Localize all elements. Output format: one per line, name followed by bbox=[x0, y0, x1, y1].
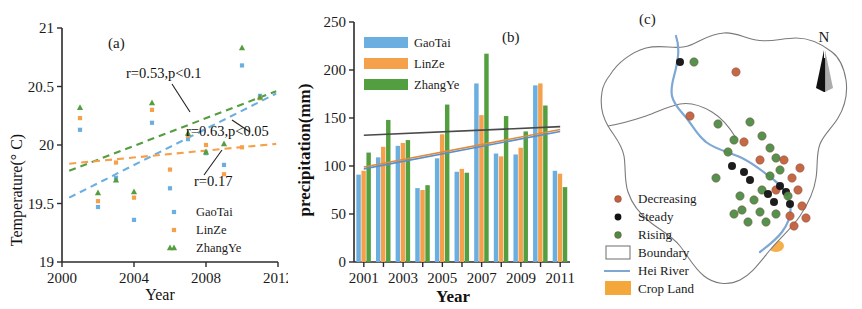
panel-a-trendline-gaotai bbox=[69, 94, 276, 198]
panel-b-bar-zhangye bbox=[445, 105, 449, 262]
panel-a-point-gaotai bbox=[96, 205, 100, 209]
map-marker-rising bbox=[746, 118, 754, 126]
panel-b-x-tick-label: 2001 bbox=[349, 270, 379, 286]
map-marker-decreasing bbox=[788, 174, 796, 182]
panel-a-point-zhangye bbox=[131, 188, 137, 194]
panel-a-annotation-linze: r=0.17 bbox=[194, 173, 232, 189]
panel-b-bar-zhangye bbox=[484, 54, 488, 262]
panel-a-y-tick-label: 20 bbox=[39, 137, 54, 153]
map-legend-label: Decreasing bbox=[638, 191, 697, 206]
panel-b-trend-dark bbox=[364, 127, 560, 136]
panel-a-point-linze bbox=[150, 108, 154, 112]
panel-b-bar-linze bbox=[518, 148, 522, 262]
panel-c-svg: N DecreasingSteadyRisingBoundaryHei Rive… bbox=[584, 0, 862, 309]
panel-b-x-tick-label: 2007 bbox=[467, 270, 498, 286]
panel-b-bar-linze bbox=[361, 171, 365, 262]
panel-b-bar-gaotai bbox=[513, 154, 517, 262]
panel-a-point-gaotai bbox=[222, 163, 226, 167]
panel-b-bar-linze bbox=[538, 83, 542, 262]
panel-b-bar-gaotai bbox=[494, 154, 498, 262]
panel-b-legend-label: ZhangYe bbox=[414, 78, 460, 92]
map-legend-label: Boundary bbox=[638, 245, 690, 260]
panel-b-bar-linze bbox=[499, 156, 503, 262]
panel-a-point-zhangye bbox=[149, 99, 155, 105]
panel-b-bar-gaotai bbox=[356, 175, 360, 262]
map-marker-rising bbox=[730, 136, 738, 144]
map-marker-decreasing bbox=[786, 212, 794, 220]
map-marker-rising bbox=[756, 208, 764, 216]
map-marker-rising bbox=[766, 172, 774, 180]
panel-b-bar-zhangye bbox=[425, 185, 429, 262]
panel-a-point-linze bbox=[114, 160, 118, 164]
panel-a-legend-label: LinZe bbox=[196, 223, 227, 237]
panel-a-x-tick-label: 2012 bbox=[263, 270, 288, 286]
map-marker-rising bbox=[776, 166, 784, 174]
panel-a-y-tick-label: 19.5 bbox=[28, 196, 54, 212]
panel-b-x-tick-label: 2009 bbox=[506, 270, 536, 286]
panel-b-bar-gaotai bbox=[553, 171, 557, 262]
panel-a-point-gaotai bbox=[132, 218, 136, 222]
map-marker-rising bbox=[736, 192, 744, 200]
panel-b-y-tick-label: 50 bbox=[331, 206, 346, 222]
map-marker-rising bbox=[724, 148, 732, 156]
panel-a-y-tick-label: 21 bbox=[39, 20, 54, 36]
map-marker-rising bbox=[766, 144, 774, 152]
map-marker-decreasing bbox=[756, 156, 764, 164]
map-marker-rising bbox=[784, 192, 792, 200]
panel-b-label: (b) bbox=[502, 29, 520, 46]
panel-b-bar-linze bbox=[558, 174, 562, 262]
panel-a-point-linze bbox=[240, 145, 244, 149]
map-marker-decreasing bbox=[790, 222, 798, 230]
panel-a-trendline-linze bbox=[69, 144, 276, 164]
map-marker-rising bbox=[690, 58, 698, 66]
panel-b-trend-orange bbox=[364, 130, 560, 167]
map-marker-rising bbox=[714, 120, 722, 128]
panel-a-label: (a) bbox=[108, 35, 125, 52]
panel-b-y-axis-title: precipitation(mm) bbox=[295, 84, 314, 217]
map-marker-steady bbox=[770, 198, 778, 206]
panel-b-bar-gaotai bbox=[435, 158, 439, 262]
panel-a-svg: 1919.52020.5212000200420082012 GaoTaiLin… bbox=[0, 0, 288, 309]
panel-a-x-tick-label: 2008 bbox=[191, 270, 221, 286]
panel-a-point-linze bbox=[132, 196, 136, 200]
map-marker-steady bbox=[740, 168, 748, 176]
map-marker-steady bbox=[776, 182, 784, 190]
map-marker-rising bbox=[772, 154, 780, 162]
figure-container: 1919.52020.5212000200420082012 GaoTaiLin… bbox=[0, 0, 862, 309]
panel-a-point-linze bbox=[96, 199, 100, 203]
map-marker-decreasing bbox=[798, 202, 806, 210]
map-marker-steady bbox=[728, 162, 736, 170]
map-legend-boundary-box bbox=[606, 246, 630, 259]
panel-b-bar-zhangye bbox=[465, 173, 469, 262]
map-legend-dot-rising bbox=[615, 232, 622, 239]
panel-b-legend-label: LinZe bbox=[414, 57, 445, 71]
panel-a-point-zhangye bbox=[77, 104, 83, 110]
panel-b-bar-linze bbox=[420, 190, 424, 262]
panel-b-trend-blue bbox=[364, 131, 560, 168]
map-marker-decreasing bbox=[794, 186, 802, 194]
panel-a-point-linze bbox=[78, 116, 82, 120]
panel-b-bar-gaotai bbox=[474, 83, 478, 262]
panel-a-point-gaotai bbox=[240, 63, 244, 67]
map-marker-rising bbox=[762, 218, 770, 226]
map-legend-dot-decreasing bbox=[615, 196, 622, 203]
panel-a-x-axis-title: Year bbox=[145, 286, 175, 303]
map-marker-rising bbox=[772, 210, 780, 218]
panel-a-x-tick-label: 2004 bbox=[119, 270, 150, 286]
map-legend-label: Steady bbox=[638, 209, 674, 224]
panel-b-x-axis-title: Year bbox=[436, 287, 470, 306]
panel-b-bar-linze bbox=[479, 115, 483, 262]
panel-a-x-tick-label: 2000 bbox=[47, 270, 77, 286]
map-marker-rising bbox=[712, 174, 720, 182]
map-marker-decreasing bbox=[802, 214, 810, 222]
map-legend-dot-steady bbox=[615, 214, 622, 221]
north-arrow-label: N bbox=[819, 29, 830, 45]
panel-b-precipitation-bars: 050100150200250200120032005200720092011 … bbox=[288, 0, 584, 309]
panel-a-y-tick-label: 20.5 bbox=[28, 79, 54, 95]
panel-b-bar-gaotai bbox=[376, 157, 380, 262]
panel-b-x-tick-label: 2005 bbox=[427, 270, 457, 286]
panel-b-bar-gaotai bbox=[455, 172, 459, 262]
panel-a-point-linze bbox=[168, 167, 172, 171]
panel-a-point-zhangye bbox=[221, 140, 227, 146]
panel-b-bar-gaotai bbox=[415, 188, 419, 262]
